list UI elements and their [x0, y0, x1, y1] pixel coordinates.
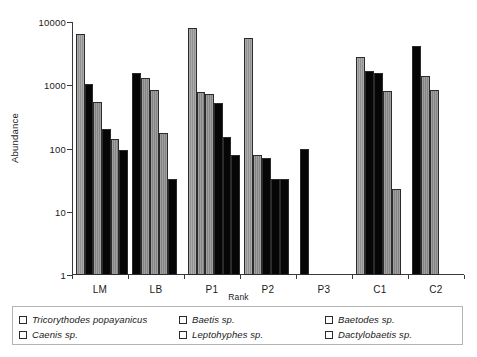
legend-label: Caenis sp.: [32, 329, 78, 340]
bar: [197, 92, 206, 275]
bar: [365, 71, 374, 275]
bar: [111, 139, 120, 275]
bar: [85, 84, 94, 275]
bar: [93, 102, 102, 275]
legend-item[interactable]: Tricorythodes popayanicus: [19, 314, 179, 325]
legend-label: Dactylobaetis sp.: [338, 329, 412, 340]
bar: [159, 133, 168, 275]
legend-label: Leptohyphes sp.: [192, 329, 263, 340]
y-tick-label: 10: [55, 206, 66, 217]
bar: [214, 103, 223, 275]
bar-group-lm: LM: [72, 22, 128, 275]
legend-item[interactable]: Caenis sp.: [19, 329, 179, 340]
x-tick-mark: [352, 275, 353, 279]
y-tick-label: 1: [61, 270, 66, 281]
x-tick-mark: [128, 275, 129, 279]
bar: [253, 155, 262, 275]
legend-item[interactable]: Baetodes sp.: [325, 314, 462, 325]
x-tick-mark: [184, 275, 185, 279]
y-tick-label: 100: [50, 143, 66, 154]
legend-swatch-icon: [19, 331, 27, 339]
bar: [244, 38, 253, 275]
bar-group-lb: LB: [128, 22, 184, 275]
bar: [280, 179, 289, 275]
legend-label: Tricorythodes popayanicus: [32, 314, 147, 325]
bar: [271, 179, 280, 275]
legend-swatch-icon: [19, 316, 27, 324]
bar: [76, 34, 85, 275]
bar: [262, 158, 271, 275]
legend-item[interactable]: Dactylobaetis sp.: [325, 329, 462, 340]
x-tick-mark: [408, 275, 409, 279]
bar: [119, 150, 128, 275]
plot-area: 100001000100101 LMLBP1P2P3C1C2: [72, 22, 464, 275]
bar: [168, 179, 177, 275]
bar: [383, 91, 392, 275]
x-tick-mark: [464, 275, 465, 279]
bar: [223, 137, 232, 275]
legend-swatch-icon: [325, 331, 333, 339]
legend-swatch-icon: [179, 331, 187, 339]
legend-item[interactable]: Leptohyphes sp.: [179, 329, 325, 340]
legend-label: Baetis sp.: [192, 314, 235, 325]
y-tick-label: 10000: [39, 17, 66, 28]
bar: [300, 149, 309, 276]
legend-swatch-icon: [325, 316, 333, 324]
y-tick-label: 1000: [44, 80, 66, 91]
bar-group-c1: C1: [352, 22, 408, 275]
bar-group-p2: P2: [240, 22, 296, 275]
bar: [430, 90, 439, 275]
bar: [392, 189, 401, 275]
abundance-bar-chart: Abundance 100001000100101 LMLBP1P2P3C1C2…: [0, 0, 477, 357]
y-axis-title: Abundance: [9, 113, 20, 163]
bar-group-p1: P1: [184, 22, 240, 275]
bar: [102, 129, 111, 275]
bar: [141, 78, 150, 275]
bar: [132, 73, 141, 275]
bar: [421, 76, 430, 275]
bar-group-c2: C2: [408, 22, 464, 275]
legend-label: Baetodes sp.: [338, 314, 395, 325]
bar: [205, 94, 214, 275]
bar: [188, 28, 197, 275]
x-axis-title: Rank: [0, 292, 477, 302]
bar: [150, 90, 159, 275]
x-tick-mark: [72, 275, 73, 279]
bar-group-p3: P3: [296, 22, 352, 275]
x-tick-mark: [296, 275, 297, 279]
legend-swatch-icon: [179, 316, 187, 324]
bar: [374, 73, 383, 275]
legend: Tricorythodes popayanicusBaetis sp.Baeto…: [12, 306, 463, 345]
x-tick-mark: [240, 275, 241, 279]
legend-item[interactable]: Baetis sp.: [179, 314, 325, 325]
bar: [412, 46, 421, 275]
bar: [231, 155, 240, 275]
bar: [356, 57, 365, 275]
bar-groups: LMLBP1P2P3C1C2: [72, 22, 464, 275]
